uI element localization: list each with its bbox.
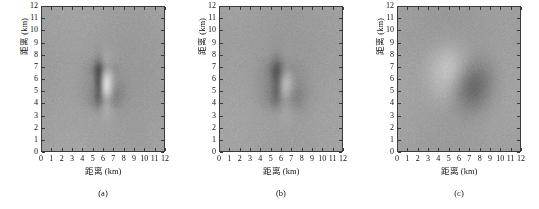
heatmap-canvas-a	[42, 7, 164, 151]
y-tick-label: 3	[212, 112, 216, 120]
y-tick-labels-c: 0123456789101112	[378, 6, 394, 152]
x-tick-label: 8	[300, 154, 304, 163]
plot-area-a	[41, 6, 165, 152]
x-tick-label: 6	[101, 154, 105, 163]
axis-tick-mark	[343, 7, 344, 10]
axis-tick-mark	[339, 152, 342, 153]
x-tick-label: 0	[39, 154, 43, 163]
y-tick-labels-b: 0123456789101112	[200, 6, 216, 152]
y-tick-label: 1	[390, 136, 394, 144]
x-tick-label: 5	[269, 154, 273, 163]
x-tick-label: 0	[217, 154, 221, 163]
y-tick-label: 10	[30, 26, 38, 34]
panel-caption-b: (b)	[219, 188, 343, 198]
x-axis-label-a: 距离 (km)	[41, 166, 165, 176]
y-tick-label: 4	[34, 99, 38, 107]
y-tick-label: 0	[390, 148, 394, 156]
y-tick-label: 9	[212, 39, 216, 47]
x-tick-label: 9	[488, 154, 492, 163]
axis-tick-mark	[521, 148, 522, 151]
x-tick-label: 7	[289, 154, 293, 163]
x-tick-label: 12	[339, 154, 347, 163]
x-tick-label: 3	[248, 154, 252, 163]
x-tick-label: 12	[517, 154, 525, 163]
y-tick-label: 8	[212, 51, 216, 59]
x-tick-label: 8	[122, 154, 126, 163]
x-tick-label: 5	[91, 154, 95, 163]
y-tick-label: 12	[386, 2, 394, 10]
y-tick-label: 2	[212, 124, 216, 132]
axis-tick-mark	[161, 152, 164, 153]
x-tick-label: 11	[151, 154, 159, 163]
y-tick-label: 11	[208, 14, 216, 22]
y-tick-label: 7	[34, 63, 38, 71]
panel-c: 距离 (km) 0123456789101112 012345678910111…	[360, 0, 535, 209]
x-axis-label-c: 距离 (km)	[397, 166, 521, 176]
y-tick-label: 6	[390, 75, 394, 83]
x-tick-label: 2	[416, 154, 420, 163]
axis-tick-mark	[42, 152, 45, 153]
y-tick-label: 7	[212, 63, 216, 71]
y-tick-label: 5	[34, 87, 38, 95]
plot-wrap-c: 距离 (km) 0123456789101112 012345678910111…	[360, 0, 535, 170]
x-tick-labels-a: 0123456789101112	[41, 154, 165, 165]
y-tick-label: 4	[212, 99, 216, 107]
x-tick-label: 11	[329, 154, 337, 163]
y-tick-label: 6	[212, 75, 216, 83]
heatmap-canvas-b	[220, 7, 342, 151]
y-tick-label: 8	[34, 51, 38, 59]
heatmap-canvas-c	[398, 7, 520, 151]
y-tick-label: 10	[386, 26, 394, 34]
axis-tick-mark	[343, 148, 344, 151]
x-tick-label: 3	[70, 154, 74, 163]
y-tick-label: 4	[390, 99, 394, 107]
x-tick-label: 4	[436, 154, 440, 163]
x-tick-label: 10	[496, 154, 504, 163]
x-tick-label: 12	[161, 154, 169, 163]
y-tick-label: 6	[34, 75, 38, 83]
y-tick-label: 5	[212, 87, 216, 95]
x-tick-label: 6	[279, 154, 283, 163]
x-tick-label: 9	[310, 154, 314, 163]
y-tick-label: 9	[390, 39, 394, 47]
panel-a: 距离 (km) 0123456789101112 012345678910111…	[4, 0, 179, 209]
y-tick-labels-a: 0123456789101112	[22, 6, 38, 152]
x-tick-label: 9	[132, 154, 136, 163]
y-tick-label: 0	[34, 148, 38, 156]
y-tick-label: 11	[386, 14, 394, 22]
x-tick-label: 8	[478, 154, 482, 163]
plot-wrap-a: 距离 (km) 0123456789101112 012345678910111…	[4, 0, 179, 170]
y-tick-label: 0	[212, 148, 216, 156]
x-tick-label: 1	[227, 154, 231, 163]
plot-area-b	[219, 6, 343, 152]
x-tick-label: 6	[457, 154, 461, 163]
x-axis-label-b: 距离 (km)	[219, 166, 343, 176]
axis-tick-mark	[220, 152, 223, 153]
y-tick-label: 1	[212, 136, 216, 144]
y-tick-label: 2	[390, 124, 394, 132]
x-tick-label: 10	[318, 154, 326, 163]
figure-three-panel-sar-images: 距离 (km) 0123456789101112 012345678910111…	[0, 0, 539, 209]
y-tick-label: 5	[390, 87, 394, 95]
y-tick-label: 9	[34, 39, 38, 47]
y-tick-label: 12	[208, 2, 216, 10]
x-tick-label: 0	[395, 154, 399, 163]
y-tick-label: 3	[34, 112, 38, 120]
axis-tick-mark	[517, 152, 520, 153]
y-tick-label: 7	[390, 63, 394, 71]
axis-tick-mark	[165, 7, 166, 10]
x-tick-label: 5	[447, 154, 451, 163]
x-tick-label: 7	[111, 154, 115, 163]
panel-b: 距离 (km) 0123456789101112 012345678910111…	[182, 0, 357, 209]
x-tick-label: 4	[258, 154, 262, 163]
y-tick-label: 10	[208, 26, 216, 34]
x-tick-label: 3	[426, 154, 430, 163]
plot-wrap-b: 距离 (km) 0123456789101112 012345678910111…	[182, 0, 357, 170]
y-tick-label: 11	[30, 14, 38, 22]
plot-area-c	[397, 6, 521, 152]
x-tick-label: 2	[60, 154, 64, 163]
x-tick-label: 2	[238, 154, 242, 163]
y-tick-label: 1	[34, 136, 38, 144]
x-tick-label: 1	[49, 154, 53, 163]
x-tick-labels-c: 0123456789101112	[397, 154, 521, 165]
